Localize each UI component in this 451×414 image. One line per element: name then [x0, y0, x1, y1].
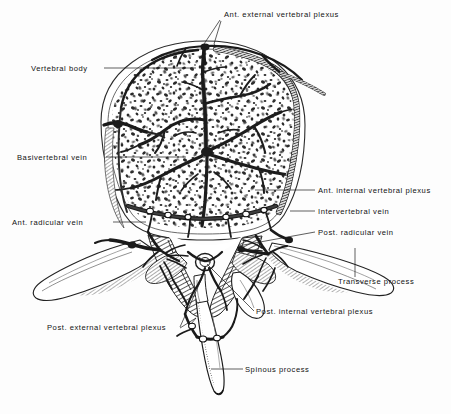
vertebral-venous-plexus-figure: Ant. external vertebral plexusVertebral … [0, 0, 451, 414]
label-text-post-external-vertebral-plexus: Post. external vertebral plexus [47, 323, 166, 332]
label-text-transverse-process: Transverse process [338, 277, 414, 286]
label-text-spinous-process: Spinous process [245, 365, 309, 374]
label-text-ant-external-vertebral-plexus: Ant. external vertebral plexus [224, 10, 339, 19]
label-text-post-radicular-vein: Post. radicular vein [318, 228, 394, 237]
label-text-basivertebral-vein: Basivertebral vein [17, 153, 87, 162]
label-text-ant-internal-vertebral-plexus: Ant. internal vertebral plexus [318, 186, 431, 195]
label-text-intervertebral-vein: Intervertebral vein [318, 207, 389, 216]
label-text-vertebral-body: Vertebral body [31, 64, 88, 73]
label-text-ant-radicular-vein: Ant. radicular vein [12, 218, 83, 227]
label-text-post-internal-vertebral-plexus: Post. internal vertebral plexus [256, 307, 373, 316]
